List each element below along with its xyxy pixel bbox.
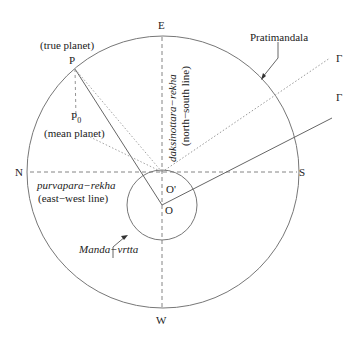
label-true-planet-caption: (true planet) xyxy=(40,39,94,52)
label-manda-vrtta: Manda−vrtta xyxy=(78,243,139,255)
label-purvapara: purvapara−rekha xyxy=(36,179,116,191)
label-north: N xyxy=(15,166,23,178)
label-true-planet: P xyxy=(69,54,75,66)
p0-to-oprime-line xyxy=(90,137,162,172)
label-west: W xyxy=(156,314,167,326)
label-daksinottara-caption: (north−south line) xyxy=(179,66,192,146)
label-mean-planet-caption: (mean planet) xyxy=(44,127,105,140)
label-mean-planet: P0 xyxy=(71,110,81,125)
label-daksinottara: daksinottara−rekha xyxy=(166,74,178,162)
label-center-o-prime: O' xyxy=(166,183,176,195)
diagram-canvas: E W N S (true planet) P P0 (mean planet)… xyxy=(0,0,358,342)
label-center-o: O xyxy=(165,204,173,216)
pratimandala-pointer xyxy=(262,42,278,78)
label-east: E xyxy=(158,19,165,31)
p-to-oprime-line xyxy=(75,69,162,172)
label-pratimandala: Pratimandala xyxy=(250,31,308,43)
label-gamma-dotted: Γ xyxy=(336,52,342,64)
label-purvapara-caption: (east−west line) xyxy=(38,192,108,205)
label-south: S xyxy=(299,166,305,178)
label-gamma-solid: Γ xyxy=(336,91,342,103)
